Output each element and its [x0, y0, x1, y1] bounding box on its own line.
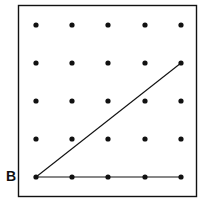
- grid-dot: [142, 174, 147, 179]
- grid-dot: [178, 98, 183, 103]
- point-label-b: B: [6, 168, 16, 184]
- grid-dot: [142, 98, 147, 103]
- grid-dot: [33, 174, 38, 179]
- grid-dot: [33, 60, 38, 65]
- grid-dot: [69, 174, 74, 179]
- grid-dot: [142, 22, 147, 27]
- grid-dot: [178, 136, 183, 141]
- grid-dot: [33, 98, 38, 103]
- grid-dot: [178, 174, 183, 179]
- segments: [36, 63, 181, 177]
- grid-dot: [105, 136, 110, 141]
- grid-dot: [33, 22, 38, 27]
- grid-dot: [33, 136, 38, 141]
- grid-dot: [69, 22, 74, 27]
- grid-dot: [105, 174, 110, 179]
- grid-dot: [69, 60, 74, 65]
- grid-dot: [105, 22, 110, 27]
- segment: [36, 63, 181, 177]
- grid-dot: [105, 60, 110, 65]
- grid-dot: [178, 60, 183, 65]
- grid-dot: [142, 60, 147, 65]
- grid-dot: [69, 98, 74, 103]
- grid-dot: [178, 22, 183, 27]
- grid-dot: [105, 98, 110, 103]
- grid-dot: [142, 136, 147, 141]
- geoboard-diagram: [0, 0, 203, 207]
- grid-dots: [33, 22, 183, 179]
- grid-dot: [69, 136, 74, 141]
